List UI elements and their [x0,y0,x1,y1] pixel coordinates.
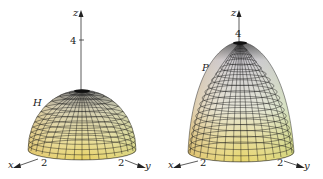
z-axis-label: z [72,7,79,18]
surface-label-P: P [201,62,209,73]
x-axis-label: x [8,159,14,170]
z-axis-label: z [230,7,237,18]
y-tick-label: 2 [277,157,283,168]
surface-label-H: H [32,97,42,108]
z-axis-arrow-icon [79,10,84,17]
z-tick-label: 4 [235,28,241,39]
x-tick-label: 2 [200,157,206,168]
x-axis-label: x [168,159,174,170]
z-tick-label: 4 [70,35,76,46]
x-axis [178,161,198,166]
x-axis-arrow-icon [13,163,21,168]
paraboloid-figure: z 4 P x 2 2 y [168,7,310,171]
y-tick-label: 2 [118,157,124,168]
y-axis-label: y [303,160,310,171]
z-axis-arrow-icon [237,10,242,17]
y-axis-label: y [144,160,151,171]
x-tick-label: 2 [41,157,47,168]
hemisphere-figure: z 4 H x 2 2 y [8,7,151,171]
x-axis-arrow-icon [173,163,181,168]
surfaces-diagram: z 4 H x 2 2 y [0,0,323,179]
x-axis [18,159,38,166]
